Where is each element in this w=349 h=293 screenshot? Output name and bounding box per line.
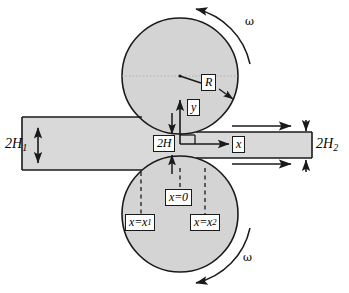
y-axis-label: y (187, 99, 200, 116)
exit-thickness-label: 2H2 (316, 137, 338, 153)
station-label-x1: x=x1 (125, 214, 155, 231)
x-axis-label: x (232, 136, 245, 153)
station-label-x2: x=x2 (190, 214, 220, 231)
roll-center-dot (178, 74, 181, 77)
station-label-x0: x=0 (165, 189, 192, 206)
entry-thickness-label: 2H1 (5, 137, 27, 153)
omega-top-label: ω (245, 16, 254, 27)
radius-label: R (201, 74, 216, 91)
strip-exit-fill (180, 132, 312, 158)
omega-bottom-label: ω (243, 252, 252, 263)
gap-thickness-label: 2H (153, 135, 175, 152)
rolling-mill-diagram: R y x 2H 2H1 2H2 x=0 x=x1 x=x2 ω ω (0, 0, 349, 293)
